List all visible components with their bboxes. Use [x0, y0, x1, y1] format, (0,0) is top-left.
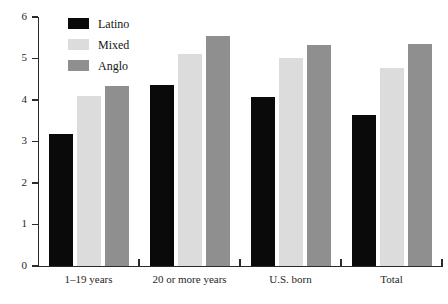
y-axis-tick-label: 0: [22, 260, 28, 271]
chart-legend: LatinoMixedAnglo: [68, 14, 129, 77]
legend-label: Mixed: [98, 39, 129, 51]
x-axis-category-label: 20 or more years: [152, 274, 226, 285]
legend-label: Latino: [98, 18, 129, 30]
bar-anglo-0: [105, 86, 129, 266]
y-axis-tick-label: 3: [22, 136, 28, 147]
bar-anglo-3: [408, 44, 432, 266]
bar-mixed-0: [77, 96, 101, 266]
legend-item-latino: Latino: [68, 14, 129, 33]
y-axis-tick-label: 5: [22, 53, 28, 64]
bar-latino-3: [352, 115, 376, 266]
bar-latino-1: [150, 85, 174, 266]
bar-mixed-3: [380, 68, 404, 266]
legend-swatch-icon: [68, 60, 89, 71]
bar-chart: 0123456 1–19 years20 or more yearsU.S. b…: [0, 0, 448, 304]
legend-swatch-icon: [68, 39, 89, 50]
x-axis-category-label: 1–19 years: [65, 274, 113, 285]
bar-latino-0: [49, 134, 73, 266]
x-axis-category-label: Total: [380, 274, 402, 285]
legend-item-anglo: Anglo: [68, 56, 129, 75]
legend-item-mixed: Mixed: [68, 35, 129, 54]
x-axis-category-label: U.S. born: [269, 274, 311, 285]
bar-latino-2: [251, 97, 275, 266]
bar-anglo-2: [307, 45, 331, 266]
bar-mixed-1: [178, 54, 202, 266]
bar-anglo-1: [206, 36, 230, 266]
bar-mixed-2: [279, 58, 303, 266]
y-axis-tick-label: 6: [22, 11, 28, 22]
legend-swatch-icon: [68, 18, 89, 29]
y-axis-tick-label: 2: [22, 177, 28, 188]
y-axis-tick-label: 1: [22, 219, 28, 230]
y-axis-tick-label: 4: [22, 94, 28, 105]
legend-label: Anglo: [98, 60, 128, 72]
